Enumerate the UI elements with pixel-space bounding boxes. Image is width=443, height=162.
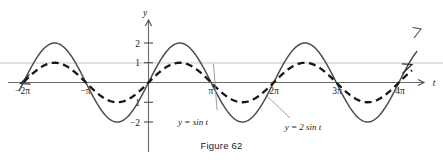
- y-tick-label-2: 2: [135, 39, 140, 49]
- annotation-leader-2sin: [267, 96, 290, 118]
- y-tick-label-1: 1: [135, 58, 140, 68]
- y-axis-label: y: [142, 8, 148, 18]
- annotation-label-2sin: y = 2 sin t: [284, 122, 322, 132]
- y-tick-label-neg2: −2: [130, 118, 140, 128]
- curve-end-arrowheads: [21, 28, 422, 85]
- figure-caption: Figure 62: [0, 140, 443, 151]
- sine-graph-svg: y t 2 1 1 −2 −2π −π π 2π 3π 4π: [0, 0, 443, 162]
- x-axis: [8, 79, 424, 85]
- x-axis-label: t: [433, 78, 436, 88]
- x-tick-label-neg2pi: −2π: [15, 86, 30, 96]
- annotation-label-sin: y = sin t: [177, 117, 208, 127]
- figure-container: y t 2 1 1 −2 −2π −π π 2π 3π 4π: [0, 0, 443, 162]
